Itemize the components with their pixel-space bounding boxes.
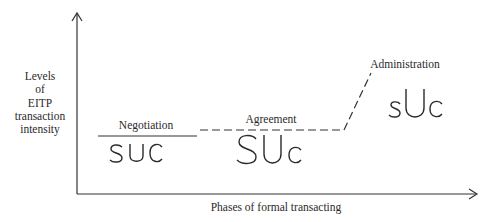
svg-text:intensity: intensity: [20, 123, 60, 136]
administration-rising-line: [344, 73, 371, 130]
phase-label-negotiation: Negotiation: [119, 119, 174, 132]
y-axis: [72, 13, 82, 194]
code-suc: [110, 144, 162, 162]
y-axis-label: Levels of EITP transaction intensity: [15, 70, 66, 136]
x-axis-label: Phases of formal transacting: [211, 201, 342, 214]
svg-text:of: of: [35, 83, 45, 95]
code-SUc: [237, 135, 301, 163]
svg-text:transaction: transaction: [15, 110, 66, 122]
x-axis: [77, 189, 477, 199]
code-sUc: [389, 89, 442, 117]
phase-label-administration: Administration: [370, 58, 440, 70]
svg-text:Levels: Levels: [25, 70, 56, 82]
phase-label-agreement: Agreement: [245, 113, 297, 126]
svg-text:EITP: EITP: [28, 97, 52, 109]
eitp-phase-diagram: Levels of EITP transaction intensity Pha…: [0, 0, 492, 222]
